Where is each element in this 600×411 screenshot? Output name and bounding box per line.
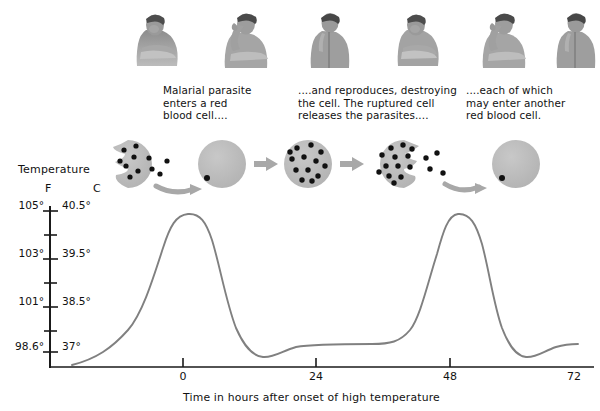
x-axis-ticks — [183, 358, 450, 367]
xtick-48: 48 — [437, 370, 463, 383]
ytick-f-103: 103° — [0, 247, 44, 259]
caption-parasite-enters: Malarial parasite enters a red blood cel… — [163, 84, 288, 122]
ytick-c-40-5: 40.5° — [62, 199, 112, 211]
ytick-c-39-5: 39.5° — [62, 247, 112, 259]
celsius-unit-label: C — [93, 182, 101, 195]
patient-photo-5 — [473, 8, 533, 70]
ytick-c-38-5: 38.5° — [62, 295, 112, 307]
patient-photo-2 — [215, 8, 275, 70]
x-axis-title: Time in hours after onset of high temper… — [183, 391, 440, 404]
patient-photo-row — [0, 0, 594, 76]
ytick-c-37: 37° — [62, 340, 112, 352]
fever-chart — [0, 152, 594, 411]
temperature-axis-label: Temperature — [18, 163, 90, 176]
xtick-0: 0 — [170, 370, 196, 383]
fahrenheit-unit-label: F — [45, 182, 52, 195]
patient-photo-1 — [128, 8, 188, 70]
fever-curve — [72, 214, 578, 365]
patient-photo-6 — [546, 8, 600, 70]
caption-reproduces-destroys: ....and reproduces, destroying the cell.… — [298, 84, 463, 122]
patient-photo-4 — [389, 8, 449, 70]
ytick-f-105: 105° — [0, 199, 44, 211]
ytick-f-101: 101° — [0, 295, 44, 307]
xtick-24: 24 — [303, 370, 329, 383]
xtick-72: 72 — [561, 370, 587, 383]
patient-photo-3 — [300, 8, 360, 70]
ytick-f-98-6: 98.6° — [0, 340, 44, 352]
caption-each-of-which: ....each of which may enter another red … — [466, 84, 591, 122]
